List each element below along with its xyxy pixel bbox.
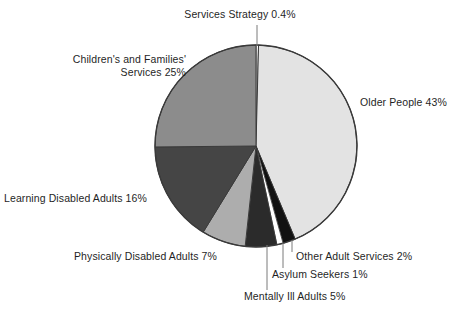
slice-label-childrens-and-families-services: Children's and Families' Services 25% bbox=[18, 53, 186, 78]
slice-label-physically-disabled-adults: Physically Disabled Adults 7% bbox=[74, 250, 238, 263]
slice-label-older-people: Older People 43% bbox=[360, 96, 463, 109]
slice-label-asylum-seekers: Asylum Seekers 1% bbox=[272, 268, 422, 281]
slice-label-other-adult-services: Other Adult Services 2% bbox=[296, 250, 456, 263]
pie-chart-figure: Services Strategy 0.4% Children's and Fa… bbox=[0, 0, 463, 313]
pie-chart-graphic bbox=[0, 0, 463, 313]
slice-label-services-strategy: Services Strategy 0.4% bbox=[140, 8, 340, 21]
slice-label-mentally-ill-adults: Mentally Ill Adults 5% bbox=[244, 290, 404, 303]
slice-label-learning-disabled-adults: Learning Disabled Adults 16% bbox=[4, 192, 176, 205]
